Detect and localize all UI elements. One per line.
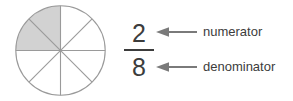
- fraction-diagram: 2 8 numerator denominator: [0, 0, 293, 101]
- numerator-arrow: [156, 26, 199, 38]
- numerator-label: numerator: [203, 25, 262, 39]
- fraction-bar: [124, 49, 154, 51]
- arrow-left-icon: [156, 26, 199, 38]
- fraction-numerator: 2: [132, 19, 146, 48]
- pie-chart: [15, 5, 106, 96]
- denominator-arrow: [156, 61, 199, 73]
- pie-divider-lines: [16, 6, 105, 95]
- fraction-denominator: 8: [132, 52, 146, 81]
- denominator-label: denominator: [203, 60, 275, 74]
- fraction: 2 8: [121, 14, 157, 86]
- arrow-left-icon: [156, 61, 199, 73]
- pie-chart-svg: [15, 5, 106, 96]
